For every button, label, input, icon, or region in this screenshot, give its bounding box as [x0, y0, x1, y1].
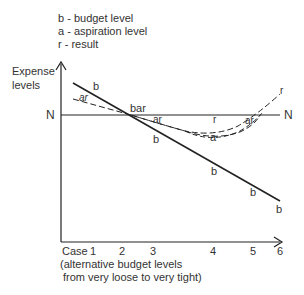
label-b-end: b [276, 203, 282, 215]
label-b-start: b [93, 80, 99, 92]
label-bar: bar [130, 102, 146, 114]
tick-6: 6 [277, 245, 283, 257]
tick-3: 3 [150, 245, 156, 257]
case-label: Case [62, 245, 88, 257]
label-a-low: a [210, 131, 217, 143]
tick-2: 2 [119, 245, 125, 257]
tick-5: 5 [250, 245, 256, 257]
x-axis-caption: (alternative budget levels from very loo… [60, 258, 202, 284]
label-ar-cross: ar [245, 115, 255, 126]
label-r-low: r [213, 114, 217, 125]
label-r-end: r [280, 85, 284, 96]
diagram: N N b ar bar ar b r a ar r b b b Case 1 … [0, 0, 304, 295]
label-b-4: b [211, 165, 217, 177]
label-b-mid: b [153, 133, 159, 145]
aspiration-curve [73, 99, 260, 136]
label-b-5: b [250, 186, 256, 198]
caption-line2: from very loose to very tight) [60, 271, 202, 284]
label-ar-mid: ar [153, 114, 163, 125]
label-ar-start: ar [79, 92, 89, 103]
tick-4: 4 [210, 245, 216, 257]
caption-line1: (alternative budget levels [60, 258, 202, 271]
n-label-right: N [284, 108, 293, 122]
budget-line [73, 83, 280, 201]
tick-1: 1 [90, 245, 96, 257]
n-label-left: N [46, 108, 55, 122]
